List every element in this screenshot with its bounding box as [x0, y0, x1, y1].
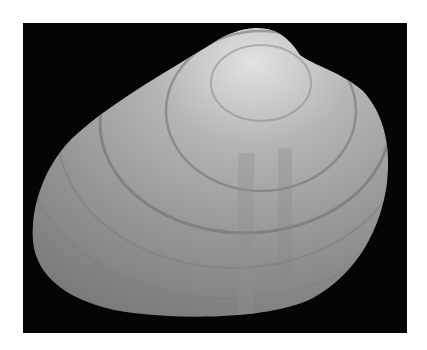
shell-photo: Grayscale photograph of a clam shell wit… — [23, 23, 407, 333]
shell-body — [33, 28, 388, 317]
clam-shell-illustration — [23, 23, 407, 333]
